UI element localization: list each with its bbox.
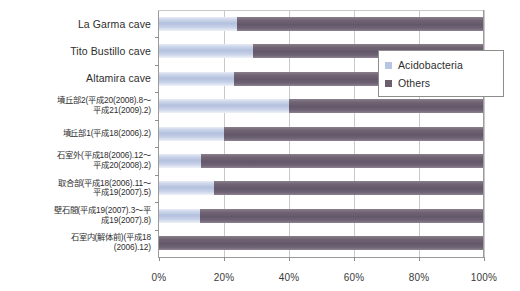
bar-row xyxy=(159,236,484,250)
legend-item-others: Others xyxy=(385,74,497,92)
category-label-line: 墳丘部1(平成18(2006).2) xyxy=(63,129,151,139)
y-tick xyxy=(155,147,159,148)
bar-segment-others xyxy=(200,209,484,223)
bar-segment-acidobacteria xyxy=(159,99,289,113)
x-tick-label-100%: 100% xyxy=(471,272,497,283)
category-label: 壁石間(平成19(2007).3〜平成19(2007).8) xyxy=(0,202,151,229)
bar-segment-others xyxy=(289,99,484,113)
legend-swatch-icon-acidobacteria xyxy=(385,62,392,69)
y-tick xyxy=(155,230,159,231)
category-label-line: 平成20(2008).2) xyxy=(93,161,151,171)
y-tick xyxy=(155,175,159,176)
category-label-line: 成19(2007).8) xyxy=(101,216,151,226)
bar-segment-others xyxy=(214,181,484,195)
x-tick-80% xyxy=(419,257,420,261)
plot-area: 0%20%40%60%80%100% xyxy=(158,10,484,258)
y-tick xyxy=(155,202,159,203)
category-label: La Garma cave xyxy=(0,10,151,37)
category-label: Tito Bustillo cave xyxy=(0,37,151,64)
x-tick-label-60%: 60% xyxy=(344,272,365,283)
plot-frame-right xyxy=(483,10,484,258)
category-label-line: (2006).12) xyxy=(114,243,151,253)
category-label-line: Tito Bustillo cave xyxy=(70,45,151,57)
x-tick-60% xyxy=(354,257,355,261)
bar-segment-acidobacteria xyxy=(159,209,200,223)
bar-row xyxy=(159,209,484,223)
bar-segment-others xyxy=(224,127,484,141)
x-tick-label-80%: 80% xyxy=(409,272,430,283)
bar-segment-others xyxy=(159,236,484,250)
legend-label-others: Others xyxy=(398,77,430,89)
bar-row xyxy=(159,181,484,195)
y-tick xyxy=(155,37,159,38)
x-tick-40% xyxy=(289,257,290,261)
category-axis: La Garma caveTito Bustillo caveAltamira … xyxy=(0,10,155,257)
bar-segment-acidobacteria xyxy=(159,181,214,195)
plot-frame-top xyxy=(158,10,484,11)
legend-swatch-icon-others xyxy=(385,80,392,87)
category-label-line: La Garma cave xyxy=(78,18,151,30)
bar-segment-others xyxy=(237,17,484,31)
bar-segment-acidobacteria xyxy=(159,127,224,141)
x-tick-100% xyxy=(484,257,485,261)
bar-segment-acidobacteria xyxy=(159,154,201,168)
chart-legend: Acidobacteria Others xyxy=(378,50,504,97)
bar-segment-acidobacteria xyxy=(159,44,253,58)
bar-row xyxy=(159,99,484,113)
category-label: 取合部(平成18(2006).11〜平成19(2007).5) xyxy=(0,175,151,202)
category-label: Altamira cave xyxy=(0,65,151,92)
x-tick-0% xyxy=(159,257,160,261)
x-tick-label-0%: 0% xyxy=(152,272,167,283)
x-tick-label-20%: 20% xyxy=(214,272,235,283)
gridline-100% xyxy=(484,10,485,257)
bar-row xyxy=(159,17,484,31)
bar-row xyxy=(159,154,484,168)
bar-row xyxy=(159,127,484,141)
category-label-line: Altamira cave xyxy=(86,72,151,84)
bar-segment-acidobacteria xyxy=(159,17,237,31)
category-label-line: 平成19(2007).5) xyxy=(93,188,151,198)
category-label: 石室内(解体前)(平成18(2006).12) xyxy=(0,230,151,257)
legend-item-acidobacteria: Acidobacteria xyxy=(385,56,497,74)
category-label: 墳丘部1(平成18(2006).2) xyxy=(0,120,151,147)
y-tick xyxy=(155,92,159,93)
x-tick-label-40%: 40% xyxy=(279,272,300,283)
legend-label-acidobacteria: Acidobacteria xyxy=(398,59,463,71)
bar-segment-acidobacteria xyxy=(159,72,234,86)
y-tick xyxy=(155,65,159,66)
category-label: 墳丘部2(平成20(2008).8〜平成21(2009).2) xyxy=(0,92,151,119)
category-label: 石室外(平成18(2006).12〜平成20(2008).2) xyxy=(0,147,151,174)
y-tick xyxy=(155,120,159,121)
x-tick-20% xyxy=(224,257,225,261)
bar-segment-others xyxy=(201,154,484,168)
stacked-bar-chart-figure: La Garma caveTito Bustillo caveAltamira … xyxy=(0,0,520,291)
category-label-line: 平成21(2009).2) xyxy=(93,106,151,116)
